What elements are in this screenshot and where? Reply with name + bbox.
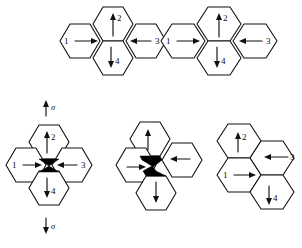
hexagon-cell-3 [162,143,202,177]
cell-label-4: 4 [273,193,278,203]
cell-label-4: 4 [221,56,226,66]
cell-label-2: 2 [51,132,56,142]
stress-arrow-bottom: σ [43,218,56,234]
cell-label-2: 2 [223,13,228,23]
cell-label-2: 2 [117,13,122,23]
cell-label-1: 1 [223,170,228,180]
cell-label-1: 1 [12,160,17,170]
cell-label-4: 4 [51,186,56,196]
cell-label-4: 4 [115,56,120,66]
cluster-bottom-right: 2 3 1 4 [217,124,295,209]
cell-label-3: 3 [290,152,295,162]
cell-label-1: 1 [166,36,171,46]
cell-label-2: 2 [242,132,247,142]
hexagon-cell-4 [197,41,241,75]
stress-label-bottom: σ [51,221,56,231]
hexagon-cell-4 [93,41,133,75]
cluster-top-right: 2 1 3 4 [161,7,277,75]
cluster-bottom-left: 2 1 3 4 [6,125,92,205]
cell-label-1: 1 [64,36,69,46]
cell-label-3: 3 [266,36,271,46]
cluster-bottom-middle [116,122,202,210]
stress-arrow-top: σ [43,100,56,116]
cell-label-3: 3 [81,160,86,170]
cell-label-3: 3 [155,36,160,46]
stress-label-top: σ [51,102,56,112]
hexagon-cell-figure: 2 1 3 4 2 [0,0,302,248]
cluster-top-left: 2 1 3 4 [60,7,166,75]
